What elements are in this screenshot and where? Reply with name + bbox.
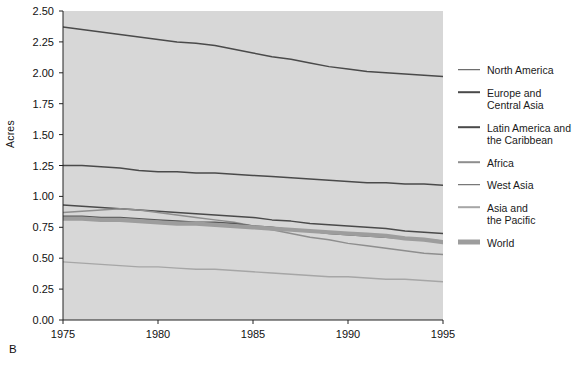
legend-label: World: [487, 237, 514, 250]
y-tick-label: 0.00: [33, 314, 54, 326]
legend-line-swatch: [458, 87, 480, 98]
y-tick-label: 2.25: [33, 36, 54, 48]
x-tick-label: 1975: [51, 328, 75, 340]
figure-panel-b: Acres 0.000.250.500.751.001.251.501.752.…: [0, 0, 580, 365]
legend-line-swatch: [458, 64, 480, 75]
legend-item: Latin America and the Caribbean: [458, 122, 578, 147]
y-tick-label: 0.50: [33, 252, 54, 264]
legend-item: Asia and the Pacific: [458, 202, 578, 227]
x-tick-label: 1995: [431, 328, 455, 340]
legend-label: Europe and Central Asia: [487, 87, 544, 112]
legend-item: Europe and Central Asia: [458, 87, 578, 112]
legend-item: Africa: [458, 157, 578, 170]
legend-item: West Asia: [458, 179, 578, 192]
legend-line-swatch: [458, 157, 480, 168]
legend-item: North America: [458, 64, 578, 77]
y-tick-label: 1.25: [33, 160, 54, 172]
x-tick-label: 1990: [336, 328, 360, 340]
legend-label: West Asia: [487, 179, 534, 192]
y-tick-label: 0.75: [33, 221, 54, 233]
legend-label: Africa: [487, 157, 514, 170]
legend-label: North America: [487, 64, 554, 77]
legend-line-swatch: [458, 122, 480, 133]
legend-line-swatch: [458, 237, 480, 248]
chart-legend: North AmericaEurope and Central AsiaLati…: [458, 64, 578, 259]
x-tick-label: 1980: [146, 328, 170, 340]
legend-label: Asia and the Pacific: [487, 202, 535, 227]
y-tick-label: 2.50: [33, 5, 54, 17]
legend-item: World: [458, 237, 578, 250]
x-tick-label: 1985: [241, 328, 265, 340]
y-tick-label: 2.00: [33, 67, 54, 79]
y-tick-label: 1.75: [33, 98, 54, 110]
legend-label: Latin America and the Caribbean: [487, 122, 571, 147]
y-tick-label: 1.00: [33, 190, 54, 202]
y-axis-tick-labels: 0.000.250.500.751.001.251.501.752.002.25…: [14, 0, 54, 365]
panel-letter: B: [9, 343, 17, 355]
legend-line-swatch: [458, 179, 480, 190]
y-tick-label: 0.25: [33, 283, 54, 295]
plot-background: [63, 11, 443, 320]
legend-line-swatch: [458, 202, 480, 213]
y-tick-label: 1.50: [33, 129, 54, 141]
